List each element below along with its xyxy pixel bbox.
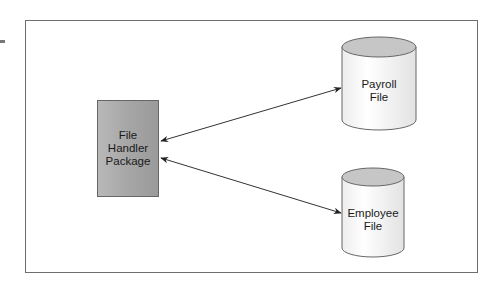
diagram-svg bbox=[0, 0, 503, 287]
label-line: File bbox=[342, 220, 404, 233]
payroll-file-label: Payroll File bbox=[342, 78, 416, 104]
diagram-canvas: File Handler Package Payroll File Employ… bbox=[0, 0, 503, 287]
label-line: Employee bbox=[342, 207, 404, 220]
arrow-handler-payroll bbox=[161, 88, 341, 141]
label-line: Handler bbox=[97, 142, 159, 155]
label-line: Payroll bbox=[342, 78, 416, 91]
employee-file-label: Employee File bbox=[342, 207, 404, 233]
label-line: File bbox=[342, 91, 416, 104]
label-line: Package bbox=[97, 155, 159, 168]
arrow-handler-employee bbox=[161, 158, 341, 213]
file-handler-label: File Handler Package bbox=[97, 129, 159, 168]
label-line: File bbox=[97, 129, 159, 142]
